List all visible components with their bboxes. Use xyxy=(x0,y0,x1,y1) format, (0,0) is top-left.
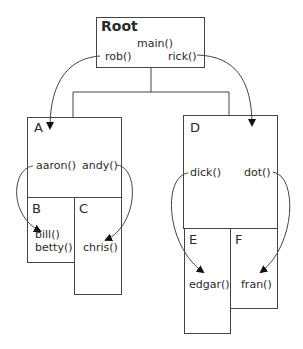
fn-bill: bill() xyxy=(35,228,60,241)
node-root-label: Root xyxy=(101,20,138,33)
node-d-label: D xyxy=(190,121,200,134)
fn-dick: dick() xyxy=(190,166,221,179)
fn-rob: rob() xyxy=(105,50,132,63)
fn-edgar: edgar() xyxy=(189,278,230,291)
node-b-label: B xyxy=(32,202,41,215)
diagram-canvas: Root main() rob() rick() A aaron() andy(… xyxy=(0,0,303,349)
fn-chris: chris() xyxy=(83,241,118,254)
fn-andy: andy() xyxy=(82,159,118,172)
node-f-label: F xyxy=(235,233,242,246)
node-e-label: E xyxy=(189,233,197,246)
fn-betty: betty() xyxy=(35,241,72,254)
fn-dot: dot() xyxy=(244,166,271,179)
node-a-label: A xyxy=(34,121,43,134)
fn-main: main() xyxy=(137,37,173,50)
fn-fran: fran() xyxy=(241,278,272,291)
fn-rick: rick() xyxy=(168,50,197,63)
fn-aaron: aaron() xyxy=(36,159,76,172)
node-c-label: C xyxy=(79,202,88,215)
